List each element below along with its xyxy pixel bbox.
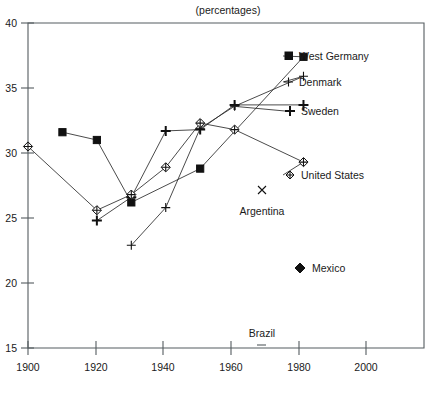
x-tick-label-2000: 2000 bbox=[354, 361, 378, 373]
data-point-united-states-1980 bbox=[299, 158, 308, 167]
x-axis-tick-labels: 1900 1920 1940 1960 1980 2000 bbox=[16, 361, 378, 373]
series-label-text-united-states: United States bbox=[301, 169, 364, 181]
x-tick-label-1980: 1980 bbox=[287, 361, 311, 373]
filled-square-icon bbox=[285, 52, 293, 60]
data-point-united-states-1960 bbox=[230, 125, 239, 134]
chart-container: 40 35 30 25 20 15 1900 1920 1940 1960 19… bbox=[0, 0, 435, 393]
y-tick-label-30: 30 bbox=[5, 147, 17, 159]
y-tick-label-25: 25 bbox=[5, 212, 17, 224]
thin-plus-icon bbox=[284, 78, 293, 87]
x-tick-label-1900: 1900 bbox=[16, 361, 40, 373]
annotation-brazil: Brazil bbox=[249, 327, 275, 345]
series-label-denmark: Denmark bbox=[284, 76, 342, 88]
data-point-west-germany-1950 bbox=[197, 165, 204, 172]
leader-line-sweden bbox=[231, 106, 285, 111]
y-tick-label-20: 20 bbox=[5, 277, 17, 289]
filled-diamond-icon bbox=[295, 263, 305, 273]
percentages-scatter-chart: 40 35 30 25 20 15 1900 1920 1940 1960 19… bbox=[0, 0, 435, 393]
series-line-denmark bbox=[131, 76, 303, 245]
data-point-west-germany-1920 bbox=[93, 136, 100, 143]
data-point-united-states-1940 bbox=[161, 163, 170, 172]
annotation-label-mexico: Mexico bbox=[312, 262, 345, 274]
annotation-argentina: Argentina bbox=[240, 186, 285, 217]
annotation-label-argentina: Argentina bbox=[240, 205, 285, 217]
plot-frame bbox=[28, 23, 424, 348]
series-label-united-states: United States bbox=[286, 169, 364, 181]
series-line-west-germany bbox=[62, 57, 303, 203]
bold-plus-icon bbox=[285, 106, 295, 116]
annotation-mexico: Mexico bbox=[295, 262, 345, 274]
y-tick-label-35: 35 bbox=[5, 82, 17, 94]
data-point-sweden-1940 bbox=[161, 126, 171, 136]
y-axis-tick-labels: 40 35 30 25 20 15 bbox=[5, 17, 17, 354]
annotation-label-brazil: Brazil bbox=[249, 327, 275, 339]
y-tick-label-15: 15 bbox=[5, 342, 17, 354]
x-tick-label-1960: 1960 bbox=[219, 361, 243, 373]
data-point-sweden-1920 bbox=[92, 216, 102, 226]
data-point-west-germany-1910 bbox=[59, 129, 66, 136]
x-marker-icon bbox=[258, 186, 266, 194]
series-label-sweden: Sweden bbox=[285, 105, 339, 117]
series-label-text-sweden: Sweden bbox=[301, 105, 339, 117]
series-label-text-denmark: Denmark bbox=[299, 76, 342, 88]
x-tick-label-1920: 1920 bbox=[84, 361, 108, 373]
chart-title: (percentages) bbox=[196, 4, 261, 16]
series-label-text-west-germany: West Germany bbox=[299, 50, 370, 62]
series-markers-layer bbox=[23, 53, 308, 250]
x-tick-label-1940: 1940 bbox=[151, 361, 175, 373]
series-label-west-germany: West Germany bbox=[285, 50, 370, 62]
y-tick-label-40: 40 bbox=[5, 17, 17, 29]
leader-lines bbox=[231, 106, 285, 111]
